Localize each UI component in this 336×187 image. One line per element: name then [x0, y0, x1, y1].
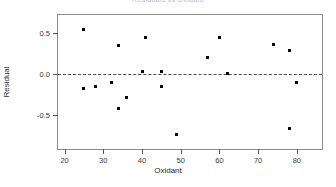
data-point [206, 56, 209, 59]
x-tick-mark [181, 149, 182, 154]
data-point [141, 70, 144, 73]
data-point [226, 72, 229, 75]
x-tick-label: 30 [99, 156, 107, 165]
plot-title: Residuals vs Oxidant [0, 0, 336, 2]
x-tick-mark [219, 149, 220, 154]
x-tick-label: 40 [138, 156, 146, 165]
y-tick-mark [53, 115, 58, 116]
data-point [160, 85, 163, 88]
y-tick-label: 0.5 [40, 28, 50, 37]
zero-reference-line [58, 74, 322, 75]
data-point [295, 81, 298, 84]
x-tick-mark [103, 149, 104, 154]
y-tick-mark [53, 33, 58, 34]
data-point [272, 43, 275, 46]
y-axis-title: Residual [2, 66, 11, 97]
data-point [82, 28, 85, 31]
data-point [288, 127, 291, 130]
x-tick-mark [258, 149, 259, 154]
data-point [110, 81, 113, 84]
x-tick-label: 80 [293, 156, 301, 165]
data-point [218, 36, 221, 39]
x-tick-mark [297, 149, 298, 154]
residual-scatter-figure: Residuals vs Oxidant 0.50.0-0.5 20304050… [0, 0, 336, 187]
data-point [144, 36, 147, 39]
x-tick-label: 50 [177, 156, 185, 165]
data-point [117, 44, 120, 47]
x-tick-label: 60 [215, 156, 223, 165]
plot-area: 0.50.0-0.5 20304050607080 [57, 14, 323, 150]
x-tick-label: 70 [254, 156, 262, 165]
x-axis-title: Oxidant [0, 166, 336, 175]
data-point [125, 96, 128, 99]
y-tick-label: 0.0 [40, 69, 50, 78]
y-tick-label: -0.5 [37, 110, 50, 119]
data-point [117, 107, 120, 110]
data-point [175, 133, 178, 136]
y-tick-mark [53, 74, 58, 75]
data-point [94, 85, 97, 88]
x-tick-label: 20 [60, 156, 68, 165]
data-point [160, 70, 163, 73]
x-tick-mark [65, 149, 66, 154]
x-tick-mark [142, 149, 143, 154]
data-point [288, 49, 291, 52]
data-point [82, 87, 85, 90]
